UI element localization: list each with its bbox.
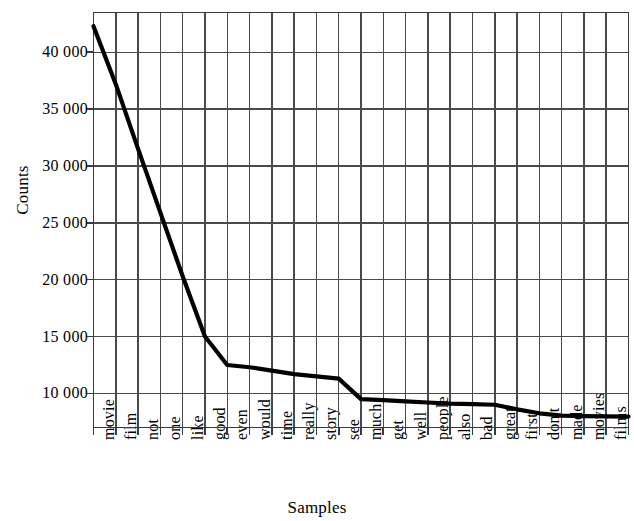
- grid-lines: [94, 13, 629, 428]
- chart-figure: Counts Samples 10 00015 00020 00025 0003…: [0, 0, 634, 521]
- line-chart-plot: [0, 0, 634, 521]
